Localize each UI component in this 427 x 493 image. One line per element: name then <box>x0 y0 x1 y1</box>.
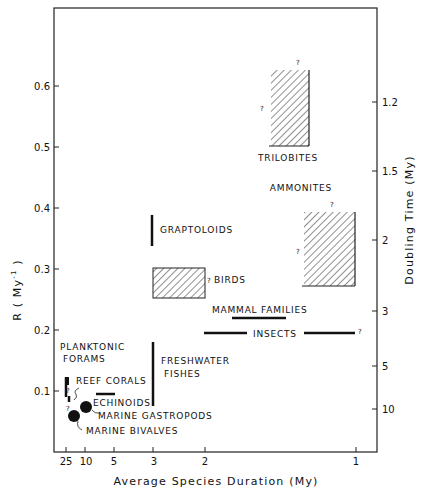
series-insects: INSECTS ? <box>204 328 362 339</box>
y-tick-label: 0.3 <box>34 264 50 275</box>
y-axis-left: 0.6 0.5 0.4 0.3 0.2 0.1 R ( My-1 ) <box>10 81 59 397</box>
series-trilobites: ? ? TRILOBITES <box>257 59 318 163</box>
label-echinoids: ECHINOIDS <box>93 398 151 408</box>
label-graptoloids: GRAPTOLOIDS <box>160 225 233 235</box>
series-planktonic-forams: PLANKTONIC FORAMS <box>60 342 125 397</box>
y2-tick-label: 5 <box>382 361 388 372</box>
x-tick-label: 10 <box>80 456 93 467</box>
label-forams: FORAMS <box>63 354 106 364</box>
series-freshwater-fishes: FRESHWATER FISHES <box>153 342 230 406</box>
label-mammal-families: MAMMAL FAMILIES <box>212 305 307 315</box>
y-tick-label: 0.1 <box>34 386 50 397</box>
label-freshwater: FRESHWATER <box>161 356 230 366</box>
x-tick-label: 3 <box>151 456 157 467</box>
svg-text:?: ? <box>66 405 70 413</box>
series-ammonites: AMMONITES ? ? <box>270 183 355 286</box>
series-graptoloids: GRAPTOLOIDS <box>152 215 233 246</box>
series-echinoids: ECHINOIDS <box>93 394 151 408</box>
x-tick-label: 1 <box>353 456 359 467</box>
label-birds: BIRDS <box>214 275 246 285</box>
x-tick-label: 5 <box>111 456 117 467</box>
label-trilobites: TRILOBITES <box>257 153 318 163</box>
y-tick-label: 0.6 <box>34 81 50 92</box>
y-tick-label: 0.4 <box>34 203 50 214</box>
label-marine-bivalves: MARINE BIVALVES <box>86 426 178 436</box>
svg-text:?: ? <box>296 59 300 67</box>
x-axis-title: Average Species Duration (My) <box>113 475 318 488</box>
series-birds: ? BIRDS <box>153 268 246 298</box>
series-mammal-families: MAMMAL FAMILIES <box>212 305 307 318</box>
label-insects: INSECTS <box>253 329 297 339</box>
y2-tick-label: 10 <box>382 404 395 415</box>
chart: 0.6 0.5 0.4 0.3 0.2 0.1 R ( My-1 ) 1.2 1… <box>0 0 427 493</box>
x-tick-label: 25 <box>60 456 73 467</box>
label-reef-corals: REEF CORALS <box>76 376 147 386</box>
y-tick-label: 0.5 <box>34 142 50 153</box>
y2-tick-label: 1.2 <box>382 97 398 108</box>
y2-axis-title: Doubling Time (My) <box>403 155 416 284</box>
label-ammonites: AMMONITES <box>270 183 332 193</box>
svg-text:?: ? <box>207 277 211 285</box>
y-tick-label: 0.2 <box>34 325 50 336</box>
svg-text:?: ? <box>66 387 70 395</box>
label-planktonic: PLANKTONIC <box>60 342 125 352</box>
svg-text:?: ? <box>330 201 334 209</box>
y2-tick-label: 3 <box>382 306 388 317</box>
svg-text:?: ? <box>260 105 264 113</box>
svg-text:?: ? <box>358 328 362 336</box>
svg-text:?: ? <box>296 248 300 256</box>
x-axis: 25 10 5 3 2 1 Average Species Duration (… <box>60 447 360 488</box>
label-marine-gastropods: MARINE GASTROPODS <box>98 411 213 421</box>
y-axis-title: R ( My-1 ) <box>10 259 24 321</box>
y2-tick-label: 2 <box>382 235 388 246</box>
y2-tick-label: 1.5 <box>382 166 398 177</box>
y-axis-right: 1.2 1.5 2 3 5 10 Doubling Time (My) <box>372 97 416 415</box>
x-tick-label: 2 <box>202 456 208 467</box>
label-fishes: FISHES <box>164 369 201 379</box>
